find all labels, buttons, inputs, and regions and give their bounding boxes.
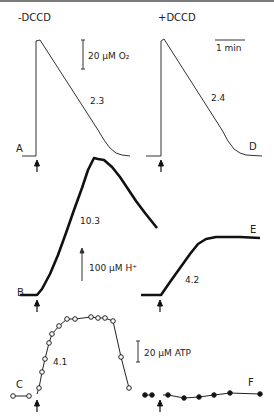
header-minus-dccd: -DCCD [18, 12, 51, 23]
panel-d-label: D [249, 141, 257, 152]
atp-scale-bar [136, 341, 140, 362]
h-scale-label: 100 μM H⁺ [89, 263, 137, 273]
arrow-icon [158, 300, 163, 312]
panel-b-rate: 10.3 [80, 216, 100, 226]
panel-f-label: F [248, 377, 254, 388]
panel-e-rate: 4.2 [185, 275, 199, 285]
arrow-icon [158, 400, 163, 412]
arrow-icon [35, 400, 40, 412]
h-scale-bar [80, 248, 84, 281]
arrow-icon [35, 300, 40, 312]
panel-f-atp-series [143, 391, 263, 401]
panel-d-rate: 2.4 [211, 93, 226, 103]
panel-c-atp-series [11, 315, 132, 399]
panel-e-label: E [250, 224, 256, 235]
panel-a-rate: 2.3 [90, 96, 104, 106]
arrow-icon [35, 160, 40, 172]
header-plus-dccd: +DCCD [158, 12, 196, 23]
atp-scale-label: 20 μM ATP [144, 348, 192, 358]
panel-b-h-trace [20, 158, 157, 295]
arrow-icon [159, 160, 164, 172]
panel-c-label: C [16, 379, 23, 390]
panel-e-h-trace [141, 237, 260, 295]
panel-c-rate: 4.1 [53, 357, 67, 367]
time-scale-label: 1 min [216, 43, 242, 53]
panel-d-o2-trace [146, 39, 262, 156]
panel-b-label: B [17, 287, 24, 298]
o2-scale-label: 20 μM O₂ [88, 51, 130, 61]
panel-a-label: A [16, 143, 23, 154]
o2-scale-bar [81, 40, 85, 69]
figure-canvas: -DCCD +DCCD A 2.3 20 μM O₂ D 2.4 1 min B… [0, 0, 274, 417]
